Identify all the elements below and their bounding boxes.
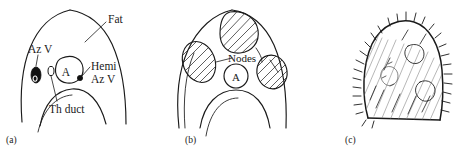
label-nodes: Nodes <box>228 52 256 64</box>
panel-c-id: (c) <box>345 135 356 146</box>
thoracic-duct-shape <box>48 66 54 75</box>
label-thoracic-duct: Th duct <box>49 103 85 115</box>
label-aorta: A <box>62 66 71 78</box>
panel-a: Fat A Az V Th duct Hemi Az V (a) <box>0 0 152 151</box>
panel-a-id: (a) <box>6 135 17 146</box>
panel-b-drawing: Nodes A (b) <box>152 0 304 151</box>
label-hemi-line2: Az V <box>91 73 116 85</box>
panel-b: Nodes A (b) <box>152 0 304 151</box>
label-aorta: A <box>232 71 240 83</box>
vertebra-outline <box>200 90 270 128</box>
panel-c-drawing: (c) <box>304 0 456 151</box>
label-fat: Fat <box>108 13 124 25</box>
body-outline-left-inner <box>184 53 194 128</box>
fat-leader <box>85 22 106 42</box>
mass-internal-hatching <box>364 30 444 120</box>
nodes-leader-right <box>270 60 278 72</box>
panel-a-drawing: Fat A Az V Th duct Hemi Az V (a) <box>0 0 152 151</box>
body-outline-right <box>232 10 286 128</box>
internal-blob-2 <box>416 81 436 101</box>
mass-base <box>368 118 440 120</box>
azygos-leader <box>36 55 38 66</box>
label-azygos: Az V <box>28 43 53 55</box>
mass-outline <box>364 21 443 120</box>
figure-container: Fat A Az V Th duct Hemi Az V (a) <box>0 0 456 151</box>
internal-blob-1 <box>405 44 424 63</box>
panel-b-id: (b) <box>185 135 196 146</box>
panel-c: (c) <box>304 0 456 151</box>
vertebra-outline-lower <box>206 98 238 136</box>
label-hemi-line1: Hemi <box>91 60 117 72</box>
